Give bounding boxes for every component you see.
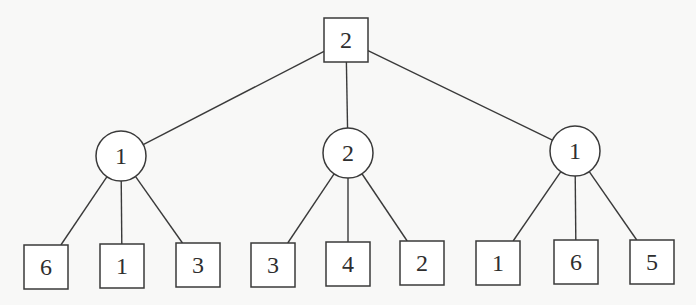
node-label: 4 — [342, 251, 354, 277]
level1-node-c3: 1 — [550, 126, 600, 176]
edge-c1-l2 — [121, 181, 122, 244]
edge-c3-l8 — [575, 176, 576, 240]
edge-root-c3 — [368, 51, 553, 140]
edge-c1-l1 — [61, 177, 107, 245]
level1-node-c2: 2 — [323, 128, 373, 178]
leaf-node-l4: 3 — [251, 243, 295, 287]
edge-c3-l7 — [513, 172, 561, 241]
leaf-node-l3: 3 — [176, 243, 220, 287]
level1-node-c1: 1 — [96, 131, 146, 181]
leaf-node-l5: 4 — [326, 242, 370, 286]
leaf-node-l7: 1 — [476, 241, 520, 285]
leaf-node-l9: 5 — [630, 240, 674, 284]
leaf-node-l6: 2 — [400, 241, 444, 285]
node-label: 1 — [116, 253, 128, 279]
edge-c2-l6 — [362, 174, 407, 241]
edge-root-c2 — [346, 62, 347, 128]
leaf-node-l2: 1 — [100, 244, 144, 288]
edge-c3-l9 — [589, 172, 636, 240]
node-label: 3 — [267, 252, 279, 278]
node-label: 6 — [40, 254, 52, 280]
node-label: 6 — [570, 249, 582, 275]
node-label: 3 — [192, 252, 204, 278]
nodes: 2121613342165 — [24, 18, 674, 289]
node-label: 1 — [115, 143, 127, 169]
node-label: 1 — [569, 138, 581, 164]
node-label: 2 — [342, 140, 354, 166]
node-label: 1 — [492, 250, 504, 276]
node-label: 2 — [416, 250, 428, 276]
tree-diagram: 2121613342165 — [0, 0, 696, 305]
tree-svg: 2121613342165 — [0, 0, 696, 305]
leaf-node-l1: 6 — [24, 245, 68, 289]
node-label: 5 — [646, 249, 658, 275]
leaf-node-l8: 6 — [554, 240, 598, 284]
edge-c2-l4 — [288, 174, 334, 243]
edge-c1-l3 — [135, 176, 182, 243]
node-label: 2 — [340, 27, 352, 53]
root-node-root: 2 — [324, 18, 368, 62]
edge-root-c1 — [143, 51, 324, 144]
